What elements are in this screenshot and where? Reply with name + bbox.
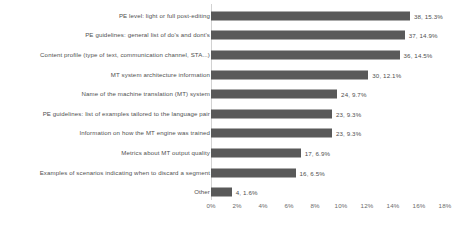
category-label: Other (194, 189, 210, 196)
category-label: Content profile (type of text, communica… (40, 52, 210, 59)
bar-data-label: 36, 14.5% (404, 51, 433, 58)
x-axis-tick-label: 16% (413, 202, 426, 209)
x-axis-tick-label: 18% (439, 202, 452, 209)
bar (211, 70, 368, 79)
x-axis-tick-label: 4% (258, 202, 267, 209)
bar (211, 90, 337, 99)
bar-data-label: 16, 6.5% (300, 169, 325, 176)
bar-row: PE level: light or full post-editing38, … (0, 6, 452, 26)
bar (211, 188, 232, 197)
bar (211, 50, 400, 59)
bar-data-label: 30, 12.1% (372, 71, 401, 78)
bar-data-label: 23, 9.3% (336, 130, 361, 137)
x-axis-tick-label: 14% (387, 202, 400, 209)
category-label: PE level: light or full post-editing (119, 12, 210, 19)
bar (211, 148, 301, 157)
bar-row: MT system architecture information30, 12… (0, 65, 452, 85)
category-label: Name of the machine translation (MT) sys… (81, 91, 210, 98)
bar-row: Content profile (type of text, communica… (0, 45, 452, 65)
category-label: Information on how the MT engine was tra… (79, 130, 210, 137)
plot-area: PE level: light or full post-editing38, … (0, 0, 452, 200)
category-label: PE guidelines: general list of do's and … (85, 32, 210, 39)
category-label: Metrics about MT output quality (121, 150, 210, 157)
category-label: PE guidelines: list of examples tailored… (43, 110, 210, 117)
x-axis-tick-label: 12% (361, 202, 374, 209)
x-axis: 0%2%4%6%8%10%12%14%16%18% (0, 202, 452, 218)
category-label: MT system architecture information (111, 71, 210, 78)
bar-row: PE guidelines: list of examples tailored… (0, 104, 452, 124)
bar-chart: PE level: light or full post-editing38, … (0, 0, 452, 226)
x-axis-tick-label: 2% (232, 202, 241, 209)
bar (211, 109, 332, 118)
bar (211, 168, 296, 177)
bar-data-label: 23, 9.3% (336, 110, 361, 117)
bar-row: Metrics about MT output quality17, 6.9% (0, 143, 452, 163)
x-axis-tick-label: 6% (284, 202, 293, 209)
x-axis-tick-label: 10% (335, 202, 348, 209)
category-label: Examples of scenarios indicating when to… (40, 169, 210, 176)
bar-data-label: 17, 6.9% (305, 149, 330, 156)
bar-data-label: 37, 14.9% (409, 32, 438, 39)
bar-row: PE guidelines: general list of do's and … (0, 26, 452, 46)
x-axis-tick-label: 0% (206, 202, 215, 209)
bar-row: Other4, 1.6% (0, 182, 452, 202)
bar-data-label: 4, 1.6% (236, 189, 258, 196)
bar-row: Examples of scenarios indicating when to… (0, 163, 452, 183)
bar-row: Name of the machine translation (MT) sys… (0, 84, 452, 104)
bar (211, 31, 405, 40)
bar-data-label: 24, 9.7% (341, 91, 366, 98)
bar-data-label: 38, 15.3% (414, 12, 443, 19)
bar-row: Information on how the MT engine was tra… (0, 124, 452, 144)
x-axis-tick-label: 8% (310, 202, 319, 209)
bar (211, 11, 410, 20)
bar (211, 129, 332, 138)
